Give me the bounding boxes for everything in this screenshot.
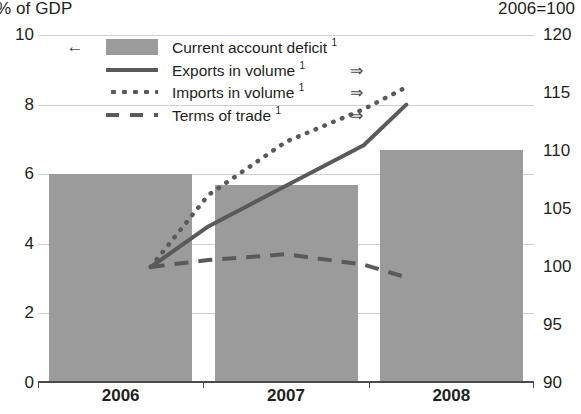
x-axis-label: 2007 bbox=[203, 386, 368, 406]
right-axis-tick-label: 90 bbox=[543, 374, 562, 391]
line-terms-of-trade bbox=[151, 254, 407, 277]
left-axis-ticks: 0246810 bbox=[0, 0, 34, 414]
left-axis-tick-label: 6 bbox=[4, 165, 34, 182]
left-axis-tick-label: 0 bbox=[4, 374, 34, 391]
x-axis-line bbox=[38, 381, 534, 383]
x-axis-label: 2008 bbox=[369, 386, 534, 406]
legend-item-label: Imports in volume 1 bbox=[172, 83, 304, 102]
legend-item[interactable]: Terms of trade 1⇒ bbox=[60, 104, 390, 127]
legend-swatch-box bbox=[106, 39, 158, 55]
legend-item-label: Terms of trade 1 bbox=[172, 105, 281, 124]
legend-item[interactable]: Exports in volume 1⇒ bbox=[60, 59, 390, 82]
right-axis-ticks: 9095100105110115120 bbox=[534, 0, 581, 414]
arrow-left-icon: ← bbox=[60, 37, 90, 57]
footnote-marker: 1 bbox=[331, 38, 337, 49]
footnote-marker: 1 bbox=[300, 60, 306, 71]
legend-item[interactable]: Imports in volume 1⇒ bbox=[60, 81, 390, 104]
legend-item-label: Exports in volume 1 bbox=[172, 60, 305, 79]
right-axis-tick-label: 95 bbox=[543, 316, 562, 333]
line-exports-in-volume bbox=[151, 105, 407, 267]
legend-swatch-dashed-line bbox=[106, 113, 158, 117]
arrow-right-icon: ⇒ bbox=[350, 60, 363, 79]
left-axis-tick-label: 4 bbox=[4, 235, 34, 252]
chart-legend: ←Current account deficit 1Exports in vol… bbox=[60, 36, 390, 126]
x-axis-label: 2006 bbox=[38, 386, 203, 406]
legend-swatch bbox=[104, 38, 160, 56]
footnote-marker: 1 bbox=[299, 83, 305, 94]
right-axis-tick-label: 110 bbox=[543, 142, 570, 159]
legend-swatch-solid-line bbox=[106, 68, 158, 72]
legend-swatch-dotted-line bbox=[106, 90, 158, 94]
right-axis-tick-label: 105 bbox=[543, 200, 571, 217]
legend-item[interactable]: ←Current account deficit 1 bbox=[60, 36, 390, 59]
legend-item-label: Current account deficit 1 bbox=[172, 38, 337, 57]
chart-container: % of GDP 2006=100 0246810 90951001051101… bbox=[0, 0, 581, 414]
legend-swatch bbox=[104, 61, 160, 79]
arrow-right-icon: ⇒ bbox=[350, 83, 363, 102]
right-axis-tick-label: 100 bbox=[543, 258, 571, 275]
left-axis-tick-label: 2 bbox=[4, 304, 34, 321]
legend-swatch bbox=[104, 106, 160, 124]
legend-swatch bbox=[104, 83, 160, 101]
right-axis-tick-label: 120 bbox=[543, 26, 571, 43]
left-axis-tick-label: 10 bbox=[4, 26, 34, 43]
right-axis-tick-label: 115 bbox=[543, 84, 570, 101]
footnote-marker: 1 bbox=[275, 105, 281, 116]
arrow-right-icon: ⇒ bbox=[350, 105, 363, 124]
left-axis-tick-label: 8 bbox=[4, 96, 34, 113]
